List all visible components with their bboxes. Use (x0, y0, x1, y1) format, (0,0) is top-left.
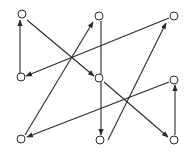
edge-bl-to-tm (25, 22, 93, 135)
edge-mr-to-bl (27, 82, 169, 137)
node-bl (17, 135, 25, 143)
node-tl (18, 10, 26, 18)
edge-bm-to-tr (108, 23, 166, 140)
node-tm (95, 12, 103, 20)
edge-tr-to-ml (26, 18, 169, 76)
node-mr (170, 76, 178, 84)
graph-svg (0, 0, 188, 156)
node-br (170, 136, 178, 144)
nodes-group (17, 10, 178, 144)
directed-graph-diagram (0, 0, 188, 156)
edge-tl-to-mm (27, 20, 94, 76)
node-bm (96, 136, 104, 144)
node-mm (95, 74, 103, 82)
node-tr (170, 12, 178, 20)
node-ml (17, 73, 25, 81)
